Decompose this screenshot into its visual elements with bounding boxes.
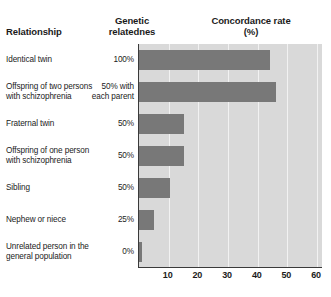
- row-value-genetic-relatedness: 50%: [90, 119, 134, 129]
- table-row: Identical twin100%: [0, 44, 138, 76]
- gridline-60: [317, 44, 318, 267]
- gridline-30: [228, 44, 229, 267]
- row-value-genetic-relatedness: 25%: [90, 215, 134, 225]
- row-value-genetic-relatedness: 50%: [90, 183, 134, 193]
- column-header-relationship: Relationship: [6, 26, 94, 37]
- column-header-genetic-relatedness-line1: Genetic: [92, 15, 172, 26]
- row-value-genetic-relatedness-line2: each parent: [92, 92, 134, 101]
- gridline-20: [198, 44, 199, 267]
- table-row: Offspring of two personswith schizophren…: [0, 76, 138, 108]
- row-label-relationship: Sibling: [6, 183, 94, 193]
- x-tick-label-60: 60: [311, 270, 321, 280]
- table-row: Unrelated person in thegeneral populatio…: [0, 236, 138, 268]
- column-header-concordance-rate-line2: (%): [176, 26, 326, 37]
- table-row: Sibling50%: [0, 172, 138, 204]
- row-value-genetic-relatedness: 50% witheach parent: [90, 82, 134, 101]
- row-label-relationship: Nephew or niece: [6, 215, 94, 225]
- x-tick-label-10: 10: [163, 270, 173, 280]
- bar-3: [139, 114, 184, 134]
- row-label-column: Identical twin100%Offspring of two perso…: [0, 44, 138, 268]
- row-label-relationship: Identical twin: [6, 55, 94, 65]
- column-header-genetic-relatedness: Genetic relatednes: [92, 15, 172, 37]
- x-tick-label-50: 50: [282, 270, 292, 280]
- bar-2: [139, 82, 276, 102]
- row-label-relationship: Unrelated person in thegeneral populatio…: [6, 242, 94, 261]
- row-value-genetic-relatedness: 100%: [90, 55, 134, 65]
- table-row: Fraternal twin50%: [0, 108, 138, 140]
- bar-6: [139, 210, 154, 230]
- table-row: Offspring of one personwith schizophreni…: [0, 140, 138, 172]
- bar-1: [139, 50, 270, 70]
- concordance-rate-figure: Relationship Genetic relatednes Concorda…: [0, 0, 331, 297]
- gridline-50: [287, 44, 288, 267]
- x-tick-label-40: 40: [252, 270, 262, 280]
- bar-7: [139, 242, 142, 262]
- bar-chart-plot-area: [138, 44, 322, 268]
- column-header-genetic-relatedness-line2: relatednes: [92, 26, 172, 37]
- row-label-relationship-line2: with schizophrenia: [6, 92, 72, 101]
- x-tick-label-20: 20: [193, 270, 203, 280]
- row-label-relationship: Fraternal twin: [6, 119, 94, 129]
- x-axis: 102030405060: [138, 269, 322, 285]
- row-value-genetic-relatedness: 0%: [90, 247, 134, 257]
- column-header-concordance-rate-line1: Concordance rate: [176, 15, 326, 26]
- row-label-relationship: Offspring of two personswith schizophren…: [6, 82, 94, 101]
- bar-5: [139, 178, 170, 198]
- row-label-relationship: Offspring of one personwith schizophreni…: [6, 146, 94, 165]
- row-label-relationship-line2: with schizophrenia: [6, 156, 72, 165]
- gridline-40: [258, 44, 259, 267]
- column-header-concordance-rate: Concordance rate (%): [176, 15, 326, 37]
- row-label-relationship-line2: general population: [6, 252, 72, 261]
- table-row: Nephew or niece25%: [0, 204, 138, 236]
- x-tick-label-30: 30: [222, 270, 232, 280]
- bar-4: [139, 146, 184, 166]
- row-value-genetic-relatedness: 50%: [90, 151, 134, 161]
